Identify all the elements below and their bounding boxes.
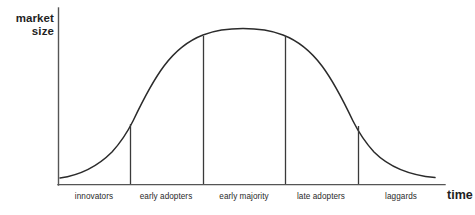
diagram-canvas [0, 0, 475, 215]
y-axis-title-line1: market [0, 12, 54, 25]
y-axis-title: market size [0, 12, 54, 38]
bell-curve-path [60, 29, 435, 178]
adoption-lifecycle-diagram: market size time innovators early adopte… [0, 0, 475, 215]
segment-label-laggards: laggards [351, 191, 451, 202]
y-axis-title-line2: size [0, 25, 54, 38]
